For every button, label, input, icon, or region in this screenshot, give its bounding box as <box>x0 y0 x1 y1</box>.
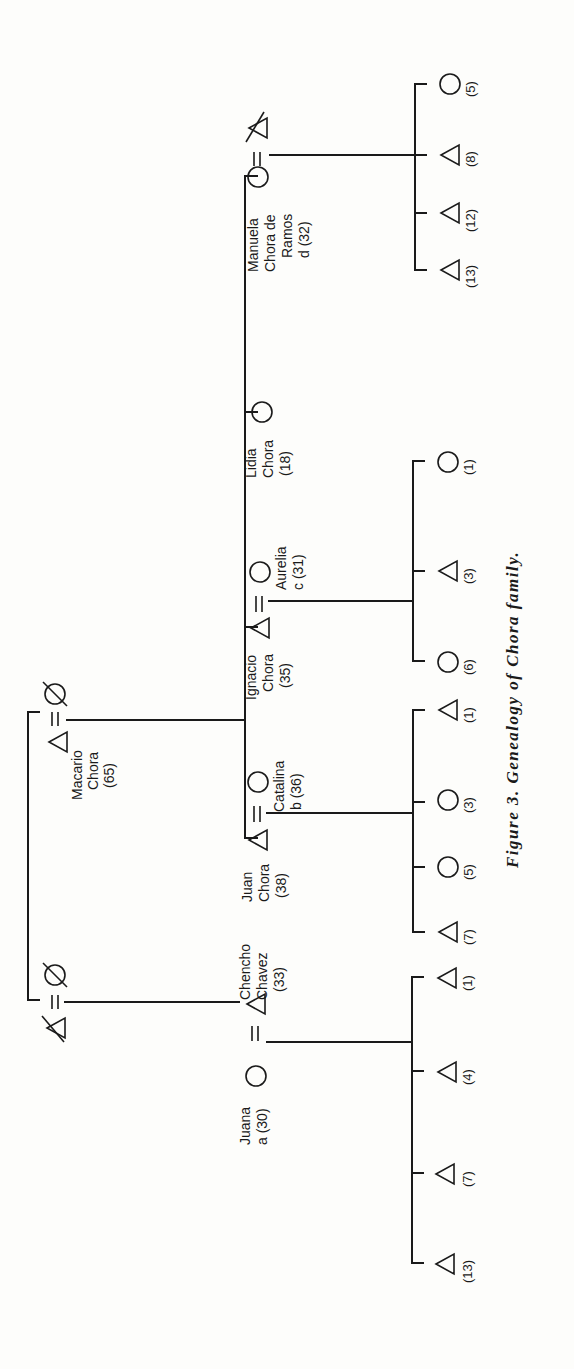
macario-name: Macario <box>69 750 85 800</box>
child-triangle-icon <box>441 145 459 165</box>
chavez-grandparents <box>28 712 240 1042</box>
juan-age: (38) <box>273 873 289 898</box>
child-circle-icon <box>438 857 458 877</box>
svg-text:Lidia Chora (18): Lidia Chora (18) <box>243 436 293 478</box>
svg-text:Manuela Chora de R: Manuela Chora de Ramos d (32) <box>245 210 312 272</box>
marriage-symbol <box>256 596 262 612</box>
svg-text:Aurelia c (31): Aurelia c (31) <box>273 543 306 590</box>
macario-couple: Macario Chora (65) <box>43 682 245 800</box>
deceased-triangle-icon <box>42 1016 65 1042</box>
sibling-line <box>245 176 258 838</box>
child-age: (8) <box>463 151 478 167</box>
child-age: (1) <box>460 975 475 991</box>
lidia-surname: Chora <box>260 440 276 478</box>
circle-icon <box>248 772 268 792</box>
marriage-symbol <box>252 1026 258 1041</box>
chencho-family: Chencho Chavez (33) Juana a (30) (1) (4)… <box>237 940 475 1283</box>
svg-text:Macario Chora (65): Macario Chora (65) <box>69 746 117 800</box>
deceased-circle-icon <box>43 682 67 706</box>
child-age: (5) <box>461 864 476 880</box>
juana-age: a (30) <box>254 1108 270 1145</box>
svg-text:Catalina b (36): Catalina b (36) <box>271 757 304 812</box>
child-age: (1) <box>461 707 476 723</box>
circle-icon <box>250 562 270 582</box>
child-triangle-icon <box>436 1254 454 1274</box>
child-age: (12) <box>463 209 478 232</box>
ignacio-family: Ignacio Chora (35) Aurelia c (31) (1) (3… <box>243 452 476 700</box>
chencho-age: (33) <box>271 967 287 992</box>
child-circle-icon <box>438 452 458 472</box>
child-circle-icon <box>438 790 458 810</box>
aurelia-age: c (31) <box>290 554 306 590</box>
marriage-symbol <box>254 806 260 822</box>
child-triangle-icon <box>436 1164 454 1184</box>
lidia-age: (18) <box>277 451 293 476</box>
macario-age: (65) <box>101 763 117 788</box>
child-triangle-icon <box>439 700 457 720</box>
figure-caption: Figure 3. Genealogy of Chora family. <box>503 551 522 869</box>
manuela-surname2: Ramos <box>279 214 295 258</box>
catalina-name: Catalina <box>271 760 287 812</box>
child-circle-icon <box>440 74 460 94</box>
lidia-name: Lidia <box>243 448 259 478</box>
juana-name: Juana <box>237 1107 253 1145</box>
child-age: (13) <box>463 265 478 288</box>
marriage-symbol <box>254 152 260 166</box>
chencho-surname: Chavez <box>254 953 270 1000</box>
child-circle-icon <box>438 652 458 672</box>
ignacio-surname: Chora <box>260 654 276 692</box>
lidia: Lidia Chora (18) <box>243 402 293 478</box>
child-age: (4) <box>460 1069 475 1085</box>
marriage-symbol <box>52 712 58 726</box>
child-triangle-icon <box>441 260 459 280</box>
macario-surname: Chora <box>85 752 101 790</box>
child-triangle-icon <box>441 203 459 223</box>
child-age: (3) <box>461 568 476 584</box>
child-triangle-icon <box>439 922 457 942</box>
juan-surname: Chora <box>256 864 272 902</box>
svg-text:Chencho Chavez (33: Chencho Chavez (33) <box>237 940 287 1000</box>
manuela-name: Manuela <box>245 218 261 272</box>
manuela-surname: Chora de <box>262 214 278 272</box>
child-age: (7) <box>460 1171 475 1187</box>
child-age: (13) <box>460 1260 475 1283</box>
catalina-age: b (36) <box>288 773 304 810</box>
chencho-name: Chencho <box>237 944 253 1000</box>
child-triangle-icon <box>438 1062 456 1082</box>
deceased-circle-icon <box>43 963 67 987</box>
circle-icon <box>246 1066 266 1086</box>
child-triangle-icon <box>438 968 456 988</box>
svg-text:Juan Chora (38): Juan Chora (38) <box>239 860 289 902</box>
genealogy-diagram: Macario Chora (65) Manuela Chora de Ramo… <box>0 0 574 1369</box>
ignacio-age: (35) <box>277 663 293 688</box>
triangle-icon <box>49 732 67 752</box>
manuela-family: Manuela Chora de Ramos d (32) (5) (8) (1… <box>245 74 478 288</box>
child-age: (1) <box>461 459 476 475</box>
svg-text:Juana a (30): Juana a (30) <box>237 1103 270 1145</box>
marriage-symbol <box>52 995 58 1009</box>
manuela-age: d (32) <box>296 221 312 258</box>
child-age: (6) <box>461 659 476 675</box>
child-triangle-icon <box>439 561 457 581</box>
juan-name: Juan <box>239 872 255 902</box>
ignacio-name: Ignacio <box>243 655 259 700</box>
svg-text:Ignacio Chora (35): Ignacio Chora (35) <box>243 650 293 700</box>
juan-family: Juan Chora (38) Catalina b (36) (1) (3) … <box>239 700 476 945</box>
triangle-icon <box>249 830 267 850</box>
child-age: (7) <box>461 929 476 945</box>
child-age: (3) <box>461 797 476 813</box>
aurelia-name: Aurelia <box>273 546 289 590</box>
deceased-triangle-icon <box>246 112 267 142</box>
child-age: (5) <box>463 81 478 97</box>
